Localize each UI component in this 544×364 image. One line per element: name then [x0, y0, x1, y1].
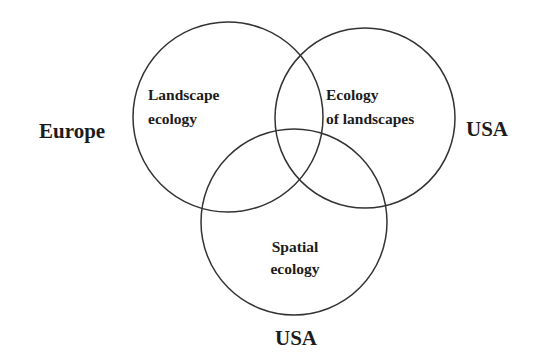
label-spatial-ecology-line2: ecology	[270, 260, 319, 277]
circle-spatial-ecology	[201, 129, 387, 315]
venn-diagram: Landscape ecology Ecology of landscapes …	[0, 0, 544, 364]
label-landscape-line1: Landscape	[148, 86, 220, 103]
label-ecology-of-landscapes-line1: Ecology	[326, 86, 379, 103]
region-label-usa-bottom: USA	[275, 326, 318, 350]
label-landscape-line2: ecology	[148, 110, 197, 127]
region-label-europe: Europe	[39, 119, 105, 143]
region-label-usa-right: USA	[466, 117, 509, 141]
label-ecology-of-landscapes-line2: of landscapes	[326, 110, 414, 127]
label-spatial-ecology-line1: Spatial	[272, 238, 319, 255]
